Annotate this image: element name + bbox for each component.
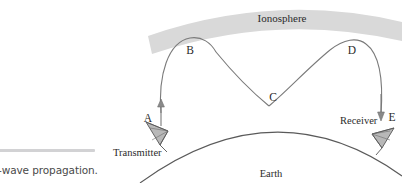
point-label-a: A <box>144 112 153 124</box>
receiver-antenna-icon <box>372 128 394 155</box>
ray-e-arrowhead-icon <box>378 112 385 121</box>
ray-path-c-d <box>269 50 330 106</box>
point-label-d: D <box>348 44 356 56</box>
point-label-e: E <box>388 111 395 123</box>
point-label-b: B <box>186 44 194 56</box>
ionosphere-label: Ionosphere <box>258 12 307 24</box>
ray-path-b-c <box>216 52 269 106</box>
figure-page: -wave propagation. <box>0 0 402 183</box>
point-label-c: C <box>269 91 277 103</box>
transmitter-label: Transmitter <box>113 147 162 158</box>
sky-wave-propagation-diagram: Ionosphere Earth Transmitter Receiver A … <box>0 0 402 183</box>
receiver-label: Receiver <box>340 115 378 126</box>
earth-label: Earth <box>260 168 283 179</box>
ray-a-arrowhead-icon <box>158 99 165 107</box>
